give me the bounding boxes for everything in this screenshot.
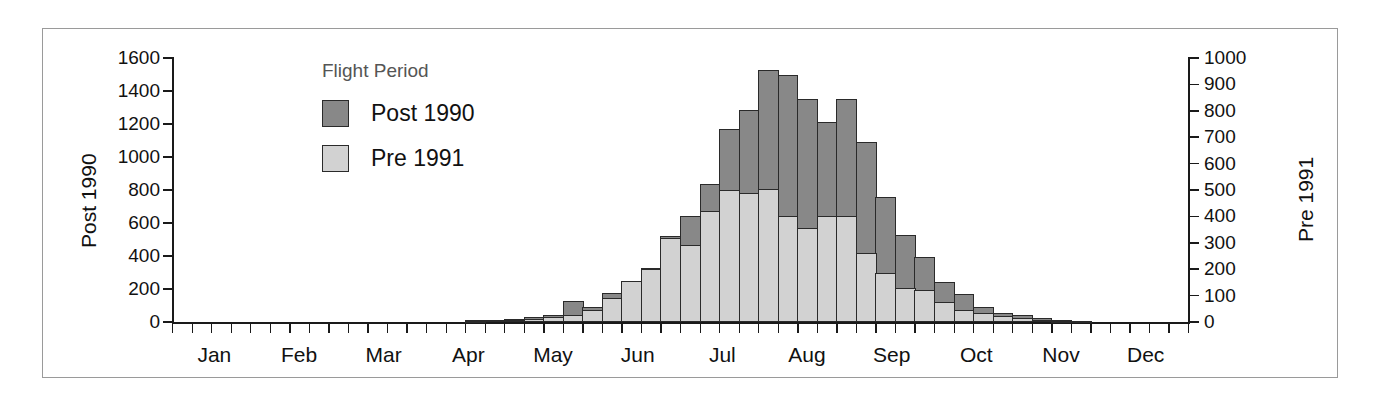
bar-pre-1991-W23 bbox=[602, 298, 623, 322]
y-tick-left-400 bbox=[163, 255, 172, 257]
bar-pre-1991-W36 bbox=[856, 253, 877, 322]
x-axis-month-jan: Jan bbox=[169, 344, 259, 365]
bar-pre-1991-W25 bbox=[641, 269, 662, 322]
bar-pre-1991-W19 bbox=[524, 319, 545, 322]
y-tick-left-600 bbox=[163, 222, 172, 224]
y-tick-left-1400 bbox=[163, 90, 172, 92]
x-tick-week-31 bbox=[758, 324, 759, 333]
y-tick-right-200 bbox=[1190, 268, 1199, 270]
legend-item-pre-1991[interactable]: Pre 1991 bbox=[322, 145, 475, 172]
x-tick-week-36 bbox=[856, 324, 857, 333]
x-axis-month-mar: Mar bbox=[339, 344, 429, 365]
y-tick-left-800 bbox=[163, 189, 172, 191]
y-tick-left-1200 bbox=[163, 123, 172, 125]
x-tick-week-18 bbox=[504, 324, 505, 333]
x-tick-week-41 bbox=[954, 324, 955, 333]
y-tick-left-1000 bbox=[163, 156, 172, 158]
x-tick-week-29 bbox=[719, 324, 720, 333]
legend-swatch-post-1990 bbox=[322, 100, 349, 127]
y-tick-right-1000 bbox=[1190, 57, 1199, 59]
y-tick-label-right-0: 0 bbox=[1204, 312, 1274, 331]
y-tick-label-left-1000: 1000 bbox=[94, 147, 160, 166]
y-tick-label-right-200: 200 bbox=[1204, 259, 1274, 278]
x-tick-week-27 bbox=[680, 324, 681, 333]
x-tick-week-49 bbox=[1110, 324, 1111, 333]
y-tick-label-right-900: 900 bbox=[1204, 74, 1274, 93]
x-tick-week-28 bbox=[700, 324, 701, 333]
y-tick-right-900 bbox=[1190, 84, 1199, 86]
x-tick-week-44 bbox=[1012, 324, 1013, 333]
x-tick-week-26 bbox=[660, 324, 661, 333]
legend-swatch-pre-1991 bbox=[322, 145, 349, 172]
x-tick-week-32 bbox=[778, 324, 779, 333]
x-tick-week-4 bbox=[231, 324, 232, 333]
x-axis-month-feb: Feb bbox=[254, 344, 344, 365]
x-tick-week-51 bbox=[1149, 324, 1150, 333]
bar-pre-1991-W26 bbox=[660, 238, 681, 322]
bar-pre-1991-W39 bbox=[914, 290, 935, 322]
x-tick-week-5 bbox=[250, 324, 251, 333]
x-tick-week-15 bbox=[446, 324, 447, 333]
x-tick-week-22 bbox=[582, 324, 583, 333]
x-tick-week-10 bbox=[348, 324, 349, 333]
y-tick-label-left-1400: 1400 bbox=[94, 81, 160, 100]
bar-pre-1991-W30 bbox=[739, 193, 760, 322]
bar-pre-1991-W42 bbox=[973, 313, 994, 322]
x-tick-week-48 bbox=[1090, 324, 1091, 333]
bar-pre-1991-W31 bbox=[758, 189, 779, 322]
bar-pre-1991-W33 bbox=[797, 228, 818, 322]
x-axis-month-aug: Aug bbox=[762, 344, 852, 365]
bar-pre-1991-W27 bbox=[680, 245, 701, 322]
x-tick-week-50 bbox=[1129, 324, 1130, 333]
bar-pre-1991-W29 bbox=[719, 190, 740, 322]
y-tick-left-200 bbox=[163, 288, 172, 290]
x-tick-week-20 bbox=[543, 324, 544, 333]
x-axis-month-may: May bbox=[508, 344, 598, 365]
y-tick-right-300 bbox=[1190, 242, 1199, 244]
x-tick-week-33 bbox=[797, 324, 798, 333]
x-axis-month-oct: Oct bbox=[931, 344, 1021, 365]
bar-pre-1991-W44 bbox=[1012, 318, 1033, 322]
legend-title: Flight Period bbox=[322, 60, 475, 82]
x-axis-month-jul: Jul bbox=[677, 344, 767, 365]
legend-label-pre-1991: Pre 1991 bbox=[371, 145, 464, 172]
bar-pre-1991-W37 bbox=[875, 273, 896, 322]
bar-pre-1991-W20 bbox=[543, 317, 564, 322]
y-tick-right-100 bbox=[1190, 295, 1199, 297]
y-tick-label-left-1200: 1200 bbox=[94, 114, 160, 133]
legend-item-post-1990[interactable]: Post 1990 bbox=[322, 100, 475, 127]
bar-pre-1991-W28 bbox=[700, 211, 721, 322]
x-tick-week-37 bbox=[875, 324, 876, 333]
bar-pre-1991-W35 bbox=[836, 216, 857, 322]
y-axis-title-left: Post 1990 bbox=[78, 153, 99, 248]
bar-pre-1991-W18 bbox=[504, 320, 525, 322]
x-tick-week-3 bbox=[211, 324, 212, 333]
x-tick-week-38 bbox=[895, 324, 896, 333]
y-tick-right-400 bbox=[1190, 216, 1199, 218]
x-tick-week-46 bbox=[1051, 324, 1052, 333]
x-tick-week-45 bbox=[1032, 324, 1033, 333]
y-tick-right-800 bbox=[1190, 110, 1199, 112]
bar-pre-1991-W40 bbox=[934, 302, 955, 322]
x-axis-month-sep: Sep bbox=[847, 344, 937, 365]
y-axis-title-right: Pre 1991 bbox=[1295, 157, 1316, 242]
x-tick-week-25 bbox=[641, 324, 642, 333]
bar-pre-1991-W16 bbox=[465, 321, 486, 323]
y-tick-label-right-300: 300 bbox=[1204, 233, 1274, 252]
bar-pre-1991-W47 bbox=[1071, 321, 1092, 323]
x-tick-week-21 bbox=[563, 324, 564, 333]
y-tick-left-0 bbox=[163, 321, 172, 323]
y-tick-label-left-400: 400 bbox=[94, 246, 160, 265]
x-tick-week-47 bbox=[1071, 324, 1072, 333]
x-tick-week-16 bbox=[465, 324, 466, 333]
y-tick-right-700 bbox=[1190, 136, 1199, 138]
x-tick-week-9 bbox=[328, 324, 329, 333]
x-tick-week-35 bbox=[836, 324, 837, 333]
y-tick-label-right-800: 800 bbox=[1204, 101, 1274, 120]
y-tick-label-right-1000: 1000 bbox=[1204, 48, 1274, 67]
x-tick-week-11 bbox=[367, 324, 368, 333]
x-tick-week-42 bbox=[973, 324, 974, 333]
bar-pre-1991-W38 bbox=[895, 288, 916, 322]
y-tick-right-600 bbox=[1190, 163, 1199, 165]
x-tick-week-2 bbox=[192, 324, 193, 333]
